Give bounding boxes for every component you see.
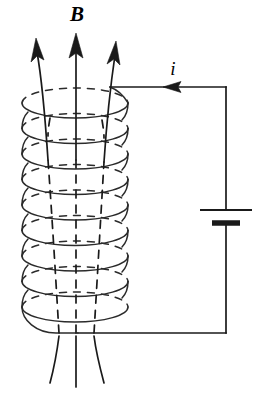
current-arrow-head: [163, 82, 181, 93]
field-line-center: [69, 33, 83, 387]
battery-symbol: [200, 210, 252, 223]
field-line-right: [94, 41, 120, 383]
field-line-left-below: [50, 336, 59, 383]
coil-turn: [22, 88, 128, 120]
field-line-right-below: [94, 336, 104, 383]
coil-turn: [22, 214, 128, 247]
solenoid-diagram-canvas: Solenoid carrying current i producing ma…: [0, 0, 258, 393]
field-line-right-inside: [94, 162, 104, 333]
coil-turn: [22, 290, 128, 322]
current-direction-arrow: [163, 82, 181, 93]
magnetic-field-label: B: [69, 2, 84, 26]
field-line-right-shaft: [104, 55, 115, 162]
field-line-left-inside: [48, 160, 59, 333]
coil-turn: [22, 163, 128, 196]
current-label: i: [170, 58, 175, 79]
solenoid-coil: [22, 87, 128, 333]
coil-turn: [22, 112, 128, 145]
coil-turn: [22, 265, 128, 298]
figure-root: Solenoid carrying current i producing ma…: [0, 0, 258, 393]
magnetic-field-lines: [31, 33, 120, 387]
